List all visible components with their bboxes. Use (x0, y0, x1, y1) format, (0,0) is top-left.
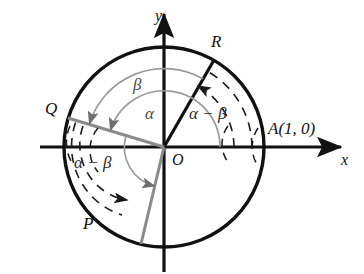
angle-label-alpha-minus-beta-right: α − β (189, 105, 226, 122)
dashed-tick-right-b (222, 126, 228, 162)
axis-label-y: y (155, 8, 162, 24)
axis-label-x: x (341, 152, 348, 168)
point-label-Q: Q (45, 100, 57, 117)
point-label-R: R (211, 33, 221, 50)
angle-label-alpha-minus-beta-left: α − β (74, 154, 111, 171)
point-label-O: O (172, 152, 184, 168)
segment-OP (141, 147, 164, 244)
point-label-A: A(1, 0) (268, 120, 315, 137)
point-label-P: P (83, 215, 93, 232)
angle-label-beta: β (133, 76, 141, 93)
unit-circle-diagram: y x O A(1, 0) R Q P β α α − β α − β (0, 0, 364, 274)
angle-label-alpha: α (145, 105, 154, 122)
